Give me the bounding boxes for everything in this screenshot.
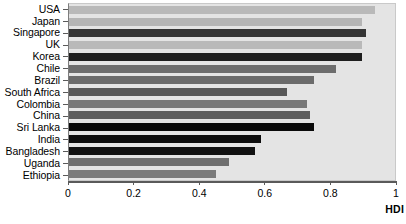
bar	[69, 6, 375, 14]
bar	[69, 29, 366, 37]
bar	[69, 135, 261, 143]
x-tick	[133, 181, 134, 185]
category-label: Uganda	[0, 157, 63, 169]
category-label: Japan	[0, 15, 63, 27]
x-axis-title: HDI	[385, 203, 404, 215]
x-tick	[264, 181, 265, 185]
bar-row	[69, 39, 395, 51]
bar-row	[69, 98, 395, 110]
x-tick-label: 0	[65, 186, 71, 200]
bar-row	[69, 133, 395, 145]
bar-row	[69, 63, 395, 75]
x-tick	[396, 181, 397, 185]
category-label: Ethiopia	[0, 169, 63, 181]
category-label: South Africa	[0, 86, 63, 98]
bar-row	[69, 145, 395, 157]
bar	[69, 100, 307, 108]
x-tick	[199, 181, 200, 185]
bar	[69, 123, 314, 131]
bar-row	[69, 168, 395, 180]
x-axis-tick-labels: 00.20.40.60.81	[68, 186, 396, 200]
category-label: India	[0, 133, 63, 145]
x-tick-label: 1	[393, 186, 399, 200]
category-label: Korea	[0, 50, 63, 62]
hdi-bar-chart: USAJapanSingaporeUKKoreaChileBrazilSouth…	[0, 0, 406, 224]
bar-row	[69, 27, 395, 39]
category-axis-labels: USAJapanSingaporeUKKoreaChileBrazilSouth…	[0, 3, 63, 181]
category-label: USA	[0, 3, 63, 15]
category-label: Colombia	[0, 98, 63, 110]
bar-series	[69, 4, 395, 180]
category-label: Singapore	[0, 27, 63, 39]
bar	[69, 18, 362, 26]
bar-row	[69, 74, 395, 86]
category-label: Bangladesh	[0, 145, 63, 157]
x-tick-label: 0.4	[192, 186, 207, 200]
category-label: China	[0, 110, 63, 122]
plot-area	[68, 3, 396, 181]
bar-row	[69, 86, 395, 98]
bar	[69, 170, 216, 178]
bar-row	[69, 51, 395, 63]
category-label: Brazil	[0, 74, 63, 86]
bar-row	[69, 110, 395, 122]
bar	[69, 65, 336, 73]
x-tick-label: 0.6	[257, 186, 272, 200]
x-tick	[68, 181, 69, 185]
x-tick	[330, 181, 331, 185]
bar-row	[69, 121, 395, 133]
x-tick-label: 0.2	[126, 186, 141, 200]
bar	[69, 76, 314, 84]
bar	[69, 158, 229, 166]
category-label: Sri Lanka	[0, 122, 63, 134]
bar-row	[69, 4, 395, 16]
category-label: UK	[0, 39, 63, 51]
bar-row	[69, 16, 395, 28]
bar	[69, 41, 362, 49]
bar	[69, 147, 255, 155]
category-label: Chile	[0, 62, 63, 74]
bar	[69, 53, 362, 61]
bar	[69, 88, 287, 96]
x-tick-label: 0.8	[323, 186, 338, 200]
bar-row	[69, 157, 395, 169]
bar	[69, 111, 310, 119]
